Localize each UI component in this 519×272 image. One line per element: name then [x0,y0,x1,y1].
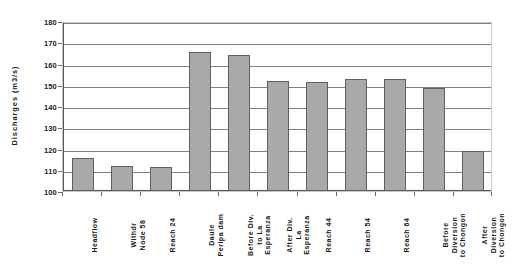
x-axis-tick [218,192,219,196]
x-axis-tick [179,192,180,196]
y-axis-tick-label: 140 [44,103,57,112]
bar [345,79,367,191]
plot-area [62,22,492,192]
y-axis-tick-label: 180 [44,18,57,27]
x-axis-category-label: Before Diversion to Chongon [442,198,460,272]
bar [150,167,172,191]
x-axis-category-label: Reach 44 [325,198,343,272]
bar [423,88,445,191]
bar [384,79,406,191]
y-axis-title-text: Discharges (m3/s) [11,65,20,145]
x-axis-category-label: Reach 64 [403,198,421,272]
x-axis-tick [414,192,415,196]
x-axis-tick [491,192,492,196]
bar-chart: Discharges (m3/s) 1801701601501401301201… [0,0,519,272]
y-axis-tick-label: 160 [44,60,57,69]
y-axis-tick-label: 150 [44,81,57,90]
x-axis-category-labels: HeadflowWithdr Node 58Reach 24Daule Peri… [62,198,492,272]
x-axis-category-label-text: After Div. La Esperanza [286,198,312,272]
bar [72,158,94,191]
x-axis-category-label: Daule Peripa dam [208,198,226,272]
y-axis-tick-label: 120 [44,145,57,154]
bar [228,55,250,191]
bar [111,166,133,192]
x-axis-category-label-text: Reach 24 [169,198,178,272]
y-axis-tick-label: 100 [44,188,57,197]
x-axis-tick [453,192,454,196]
x-axis-tick [257,192,258,196]
x-axis-tick [375,192,376,196]
y-axis-tick-label: 170 [44,39,57,48]
bars-layer [63,23,491,191]
x-axis-category-label: Before Div. to La Esperanza [247,198,265,272]
x-axis-category-label: Headflow [91,198,109,272]
bar [462,151,484,191]
x-axis-category-label-text: Daule Peripa dam [208,198,225,272]
x-axis-tick [140,192,141,196]
x-axis-category-label-text: After Diversion to Chongon [481,198,507,272]
x-axis-category-label: Reach 54 [364,198,382,272]
x-axis-tick [101,192,102,196]
bar [306,82,328,191]
y-axis-tick-labels: 180170160150140130120110100 [30,16,60,192]
x-axis-category-label-text: Reach 44 [325,198,334,272]
y-axis-tick-label: 110 [44,166,57,175]
x-axis-category-label-text: Before Diversion to Chongon [442,198,468,272]
x-axis-tick [336,192,337,196]
x-axis-ticks [62,192,492,197]
x-axis-category-label: Withdr Node 58 [130,198,148,272]
bar [189,52,211,191]
bar [267,81,289,192]
y-axis-title: Discharges (m3/s) [0,0,30,210]
x-axis-category-label: Reach 24 [169,198,187,272]
x-axis-category-label-text: Before Div. to La Esperanza [247,198,273,272]
x-axis-tick [297,192,298,196]
x-axis-category-label-text: Headflow [91,198,100,272]
y-axis-tick-label: 130 [44,124,57,133]
x-axis-category-label: After Div. La Esperanza [286,198,304,272]
x-axis-category-label-text: Reach 64 [403,198,412,272]
x-axis-tick [62,192,63,196]
x-axis-category-label-text: Withdr Node 58 [130,198,147,272]
x-axis-category-label-text: Reach 54 [364,198,373,272]
x-axis-category-label: After Diversion to Chongon [481,198,499,272]
